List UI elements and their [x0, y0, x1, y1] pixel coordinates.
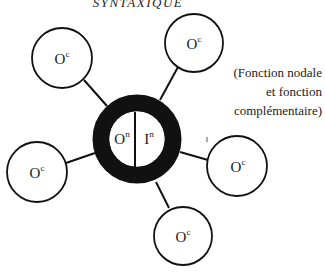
diagram-title: SYNTAXIQUE: [88, 0, 188, 11]
central-node-right-label: In: [144, 131, 154, 148]
caption-line-3: complémentaire): [226, 101, 322, 120]
connector-top-right: [160, 67, 178, 100]
superscript-c: c: [241, 157, 245, 167]
superscript-c: c: [40, 163, 44, 173]
superscript-n: n: [149, 129, 154, 139]
diagram-caption: (Fonction nodale et fonction complémenta…: [226, 63, 322, 120]
label-O: O: [30, 165, 41, 181]
caption-line-2: et fonction: [226, 82, 322, 101]
superscript-c: c: [186, 227, 190, 237]
satellite-label-left: Oc: [30, 165, 45, 182]
label-O: O: [176, 229, 187, 245]
label-O: O: [187, 36, 198, 52]
superscript-c: c: [197, 34, 201, 44]
caption-line-1: (Fonction nodale: [226, 63, 322, 82]
satellite-label-top-left: Oc: [55, 51, 70, 68]
stemma-diagram: SYNTAXIQUE On In Oc Oc Oc Oc Oc (Fonctio…: [0, 0, 325, 272]
label-O: O: [114, 131, 125, 147]
diagram-graphics: [0, 0, 325, 272]
superscript-c: c: [65, 49, 69, 59]
label-O: O: [231, 159, 242, 175]
superscript-n: n: [125, 129, 130, 139]
connector-bottom: [156, 182, 169, 208]
satellite-label-right: Oc: [231, 159, 246, 176]
central-node-left-label: On: [114, 131, 129, 148]
label-O: O: [55, 51, 66, 67]
connector-right: [180, 152, 208, 160]
satellite-label-top-right: Oc: [187, 36, 202, 53]
satellite-label-bottom: Oc: [176, 229, 191, 246]
connector-top-left: [84, 80, 107, 106]
connector-left: [66, 153, 95, 163]
